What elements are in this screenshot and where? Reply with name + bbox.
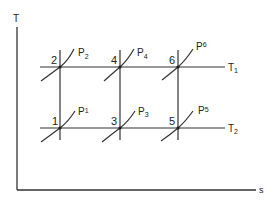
isobar-p2 [41, 49, 74, 81]
pressure-label-p4: P4 [137, 47, 148, 60]
isotherm-t2-label: T2 [228, 123, 238, 135]
state-point-2 [58, 65, 61, 68]
state-point-4 [118, 65, 121, 68]
state-point-1 [58, 126, 61, 129]
state-label-2: 2 [51, 54, 57, 66]
state-label-1: 1 [52, 115, 58, 127]
state-point-3 [118, 126, 121, 129]
pressure-label-p3: P3 [138, 106, 149, 118]
pressure-label-p1: P1 [78, 106, 89, 117]
pressure-labels: P2 P4 P6 P1 P3 P5 [78, 41, 209, 118]
state-label-3: 3 [111, 115, 117, 127]
isentropes [60, 50, 178, 140]
y-axis-label: T [13, 13, 19, 24]
ts-diagram: T s T1 T2 2 4 6 1 3 5 P2 [0, 0, 279, 201]
state-label-5: 5 [169, 115, 175, 127]
isotherm-t1-label: T1 [228, 62, 238, 74]
state-label-6: 6 [169, 54, 175, 66]
isobar-p4 [104, 49, 134, 81]
pressure-label-p2: P2 [78, 47, 89, 60]
state-labels: 2 4 6 1 3 5 [51, 54, 175, 127]
isotherms [40, 67, 225, 128]
state-points [58, 65, 179, 129]
state-point-5 [176, 126, 179, 129]
pressure-label-p5: P5 [198, 105, 209, 116]
state-point-6 [176, 65, 179, 68]
x-axis-label: s [259, 185, 264, 195]
state-label-4: 4 [111, 54, 117, 66]
isobar-p3 [102, 111, 135, 142]
isobar-p5 [161, 111, 193, 141]
pressure-label-p6: P6 [196, 41, 207, 52]
